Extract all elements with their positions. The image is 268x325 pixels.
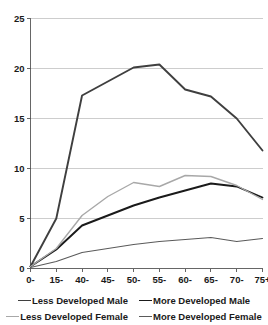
legend-item-less-developed-female[interactable]: Less Developed Female: [6, 311, 128, 322]
series-line-more-developed-male: [31, 184, 263, 267]
xtick-label-65-: 65-: [204, 274, 218, 285]
plot-area: 0510152025 0-15-40-45-50-55-60-65-70-75+: [0, 0, 268, 290]
xtick-label-75+: 75+: [254, 274, 268, 285]
legend-swatch-less-developed-female: [6, 316, 19, 317]
legend-swatch-less-developed-male: [18, 300, 31, 301]
xtick-label-45-: 45-: [101, 274, 115, 285]
axes-group: [31, 19, 263, 269]
legend-label-more-developed-female: More Developed Female: [153, 311, 262, 322]
tick-marks-group: [27, 19, 263, 273]
ytick-labels-group: 0510152025: [14, 13, 25, 274]
legend-label-more-developed-male: More Developed Male: [153, 295, 250, 306]
xtick-label-70-: 70-: [230, 274, 244, 285]
data-series-group: [31, 65, 263, 268]
series-line-less-developed-female: [31, 176, 263, 267]
xtick-labels-group: 0-15-40-45-50-55-60-65-70-75+: [26, 274, 268, 285]
plot-svg: 0510152025 0-15-40-45-50-55-60-65-70-75+: [0, 0, 268, 290]
xtick-label-60-: 60-: [178, 274, 192, 285]
chart-legend: Less Developed MaleMore Developed MaleLe…: [0, 292, 268, 325]
line-chart: 0510152025 0-15-40-45-50-55-60-65-70-75+…: [0, 0, 268, 325]
ytick-label-15: 15: [14, 113, 25, 124]
xtick-label-15-: 15-: [49, 274, 63, 285]
xtick-label-0-: 0-: [26, 274, 34, 285]
legend-label-less-developed-female: Less Developed Female: [20, 311, 128, 322]
legend-item-less-developed-male[interactable]: Less Developed Male: [18, 295, 128, 306]
xtick-label-40-: 40-: [75, 274, 89, 285]
legend-label-less-developed-male: Less Developed Male: [32, 295, 128, 306]
legend-item-more-developed-female[interactable]: More Developed Female: [139, 311, 262, 322]
ytick-label-20: 20: [14, 63, 25, 74]
ytick-label-10: 10: [14, 163, 25, 174]
gridlines-group: [31, 19, 263, 219]
legend-item-more-developed-male[interactable]: More Developed Male: [139, 295, 250, 306]
xtick-label-55-: 55-: [153, 274, 167, 285]
legend-row-2: Less Developed FemaleMore Developed Fema…: [0, 308, 268, 324]
legend-swatch-more-developed-female: [139, 316, 152, 317]
ytick-label-5: 5: [19, 213, 25, 224]
xtick-label-50-: 50-: [127, 274, 141, 285]
ytick-label-25: 25: [14, 13, 25, 24]
legend-row-1: Less Developed MaleMore Developed Male: [0, 292, 268, 308]
ytick-label-0: 0: [19, 263, 24, 274]
legend-swatch-more-developed-male: [139, 300, 152, 301]
